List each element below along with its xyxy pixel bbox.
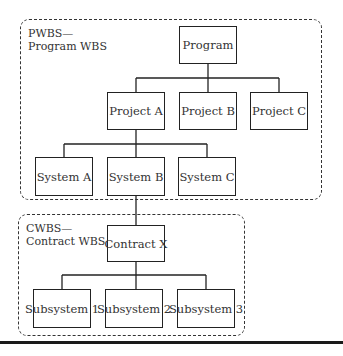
node-project-c: Project C (250, 92, 308, 130)
node-contract-x: Contract X (107, 225, 165, 262)
node-subsystem-2: Subsystem 2 (105, 289, 163, 328)
node-system-a: System A (35, 157, 93, 196)
cwbs-label: CWBS— Contract WBS (26, 222, 105, 248)
node-subsystem-1: Subsystem 1 (33, 289, 91, 328)
node-project-a: Project A (107, 92, 165, 130)
node-subsystem-3: Subsystem 3 (177, 289, 235, 328)
bottom-rule (0, 341, 343, 344)
node-project-b: Project B (179, 92, 237, 130)
node-system-b: System B (107, 157, 165, 196)
node-system-c: System C (178, 157, 236, 196)
pwbs-label: PWBS— Program WBS (28, 27, 107, 53)
node-program: Program (179, 26, 237, 64)
